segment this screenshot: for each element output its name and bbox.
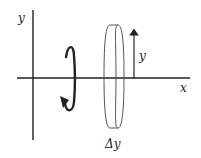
radius-label: y (138, 49, 146, 63)
disk-method-diagram: y y x Δy (0, 0, 201, 158)
thickness-label: Δy (104, 137, 121, 151)
x-axis-label: x (180, 81, 187, 95)
disk (104, 25, 124, 128)
y-axis-label: y (17, 11, 25, 25)
rotation-arrow-icon (60, 44, 75, 110)
